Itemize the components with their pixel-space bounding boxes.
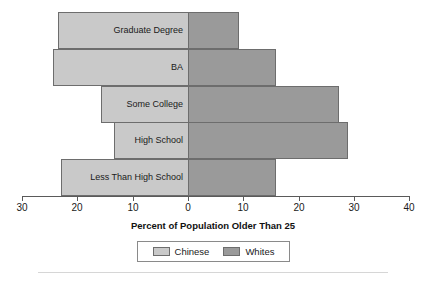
legend-swatch-whites (223, 247, 240, 256)
bar-row: Graduate Degree (0, 12, 426, 49)
x-tick-mark (22, 196, 23, 201)
x-tick-mark (243, 196, 244, 201)
x-tick-mark (409, 196, 410, 201)
x-tick-mark (299, 196, 300, 201)
bar-row: Some College (0, 86, 426, 123)
bar-category-label: Graduate Degree (0, 12, 188, 49)
x-axis-title: Percent of Population Older Than 25 (0, 220, 426, 231)
chart-container: Graduate DegreeBASome CollegeHigh School… (0, 0, 426, 282)
bar-whites (188, 86, 339, 123)
chart-legend: Chinese Whites (137, 241, 290, 262)
bar-whites (188, 159, 276, 196)
legend-item-whites: Whites (223, 246, 274, 257)
x-tick-label: 30 (334, 202, 374, 213)
x-tick-mark (133, 196, 134, 201)
x-tick-label: 10 (223, 202, 263, 213)
bar-category-label: Less Than High School (0, 159, 188, 196)
bar-category-label: Some College (0, 86, 188, 123)
bar-row: Less Than High School (0, 159, 426, 196)
x-tick-label: 30 (2, 202, 42, 213)
bar-category-label: High School (0, 122, 188, 159)
x-tick-label: 10 (113, 202, 153, 213)
legend-swatch-chinese (153, 247, 170, 256)
bar-whites (188, 49, 276, 86)
x-tick-label: 20 (57, 202, 97, 213)
legend-item-chinese: Chinese (153, 246, 210, 257)
footer-divider (38, 272, 388, 273)
x-tick-mark (354, 196, 355, 201)
plot-area: Graduate DegreeBASome CollegeHigh School… (0, 0, 426, 200)
x-tick-label: 40 (389, 202, 426, 213)
x-tick-mark (77, 196, 78, 201)
bar-category-label: BA (0, 49, 188, 86)
bar-whites (188, 12, 239, 49)
legend-label-chinese: Chinese (175, 246, 210, 257)
bar-row: High School (0, 122, 426, 159)
x-tick-mark (188, 196, 189, 201)
x-tick-label: 0 (168, 202, 208, 213)
bar-row: BA (0, 49, 426, 86)
x-tick-label: 20 (279, 202, 319, 213)
legend-label-whites: Whites (245, 246, 274, 257)
bar-whites (188, 122, 348, 159)
x-axis-line (22, 196, 410, 197)
